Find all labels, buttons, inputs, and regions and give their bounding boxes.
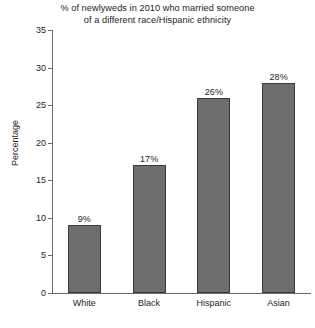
y-axis-tick xyxy=(48,255,53,256)
y-axis-tick xyxy=(48,293,53,294)
x-axis-line xyxy=(52,293,311,294)
chart-title-line-2: of a different race/Hispanic ethnicity xyxy=(0,15,315,27)
plot-area: 051015202530359%White17%Black26%Hispanic… xyxy=(52,30,311,293)
x-axis-category-label: Asian xyxy=(244,298,314,308)
y-axis-tick-label: 20 xyxy=(20,138,46,148)
y-axis-tick-label: 10 xyxy=(20,213,46,223)
bar-black: 17% xyxy=(133,165,166,293)
y-axis-tick xyxy=(48,143,53,144)
bar-value-label: 9% xyxy=(78,214,91,224)
chart-title-line-1: % of newlyweds in 2010 who married someo… xyxy=(0,3,315,15)
y-axis-tick xyxy=(48,105,53,106)
y-axis-tick xyxy=(48,68,53,69)
y-axis-tick-label: 25 xyxy=(20,100,46,110)
y-axis-tick xyxy=(48,30,53,31)
y-axis-tick-label: 0 xyxy=(20,288,46,298)
bar-hispanic: 26% xyxy=(197,98,230,293)
bar-white: 9% xyxy=(68,225,101,293)
y-axis-tick xyxy=(48,218,53,219)
bar-value-label: 28% xyxy=(270,72,288,82)
y-axis-tick-label: 15 xyxy=(20,175,46,185)
x-axis-category-label: Hispanic xyxy=(179,298,249,308)
y-axis-line xyxy=(52,30,53,293)
y-axis-tick-label: 35 xyxy=(20,25,46,35)
bar-asian: 28% xyxy=(262,83,295,293)
bar-chart: % of newlyweds in 2010 who married someo… xyxy=(0,0,315,328)
chart-title: % of newlyweds in 2010 who married someo… xyxy=(0,3,315,26)
y-axis-label: Percentage xyxy=(10,98,20,188)
y-axis-tick-label: 5 xyxy=(20,250,46,260)
y-axis-tick xyxy=(48,180,53,181)
bar-value-label: 17% xyxy=(140,154,158,164)
y-axis-tick-label: 30 xyxy=(20,63,46,73)
bar-value-label: 26% xyxy=(205,87,223,97)
x-axis-category-label: Black xyxy=(114,298,184,308)
x-axis-category-label: White xyxy=(49,298,119,308)
